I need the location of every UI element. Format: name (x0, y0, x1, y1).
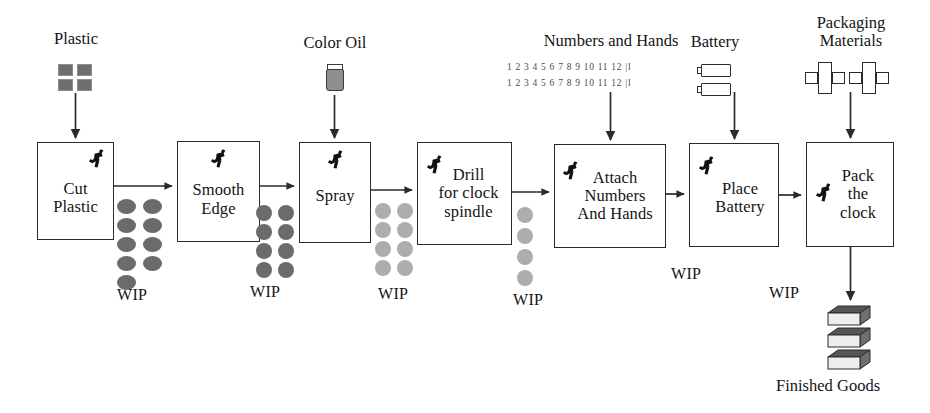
wip-dots-3 (375, 203, 417, 273)
process-label-pack-the-clock: Pack the clock (840, 167, 876, 221)
finished-goods-stack (826, 305, 882, 371)
process-box-cut-plastic[interactable]: Cut Plastic (37, 142, 114, 240)
worker-icon (696, 154, 718, 178)
worker-icon (813, 181, 835, 205)
process-label-cut-plastic: Cut Plastic (53, 180, 98, 217)
wip-label-4: WIP (513, 291, 543, 309)
wip-label-1: WIP (117, 286, 147, 304)
paint-jar-icon (325, 64, 345, 94)
worker-icon (86, 147, 108, 171)
process-box-attach-numbers-and-hands[interactable]: Attach Numbers And Hands (554, 144, 666, 248)
material-label-color-oil: Color Oil (292, 34, 378, 52)
material-label-packaging-materials: Packaging Materials (795, 14, 907, 50)
unfolded-box-icon (805, 62, 897, 94)
process-label-spray: Spray (316, 187, 355, 205)
wip-label-3: WIP (378, 285, 408, 303)
process-box-place-battery[interactable]: Place Battery (689, 143, 779, 247)
worker-icon (560, 159, 582, 183)
process-label-attach-numbers-and-hands: Attach Numbers And Hands (577, 169, 653, 223)
finished-goods-label: Finished Goods (776, 376, 880, 396)
material-label-plastic: Plastic (36, 30, 116, 48)
process-flow-diagram: Plastic Color Oil Numbers and Hands 1 2 … (0, 0, 930, 413)
worker-icon (208, 147, 230, 171)
numbers-strip-line-2: 1 2 3 4 5 6 7 8 9 10 11 12 |l (507, 78, 631, 88)
process-box-smooth-edge[interactable]: Smooth Edge (177, 141, 260, 242)
plastic-sheet-icon (58, 64, 94, 92)
wip-dots-4 (517, 207, 535, 279)
process-label-place-battery: Place Battery (715, 180, 764, 217)
worker-icon (325, 148, 347, 172)
process-label-smooth-edge: Smooth Edge (193, 181, 245, 218)
wip-dots-2 (256, 205, 298, 275)
carton-icon (826, 305, 882, 371)
numbers-strip-line-1: 1 2 3 4 5 6 7 8 9 10 11 12 |l (507, 62, 631, 72)
wip-label-5: WIP (671, 265, 701, 283)
process-box-drill-for-clock-spindle[interactable]: Drill for clock spindle (417, 142, 512, 245)
worker-icon (424, 153, 446, 177)
battery-icon (697, 62, 747, 96)
process-box-pack-the-clock[interactable]: Pack the clock (806, 142, 894, 247)
wip-label-2: WIP (250, 283, 280, 301)
wip-label-6: WIP (769, 284, 799, 302)
material-label-battery: Battery (680, 33, 750, 51)
wip-dots-1 (117, 199, 169, 277)
process-label-drill-for-clock-spindle: Drill for clock spindle (439, 166, 499, 220)
process-box-spray[interactable]: Spray (299, 142, 371, 243)
